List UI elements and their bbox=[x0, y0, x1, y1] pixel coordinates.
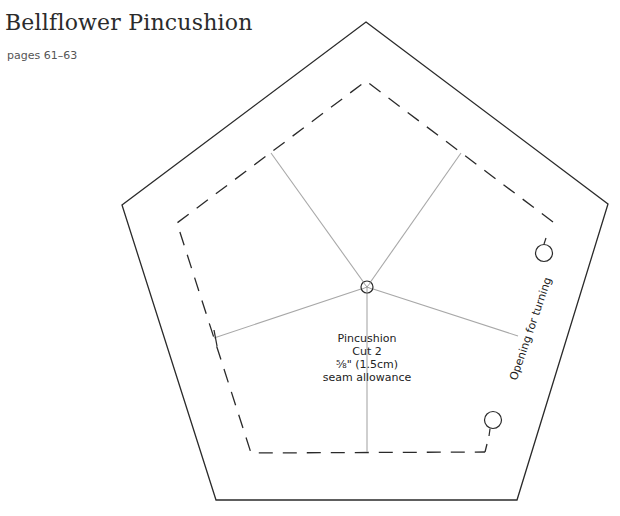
pattern-diagram: Pincushion Cut 2 ⅝" (1.5cm) seam allowan… bbox=[0, 0, 620, 516]
center-marker-icon bbox=[361, 281, 373, 293]
piece-name-label: Pincushion bbox=[338, 332, 397, 345]
opening-marker-bottom bbox=[485, 412, 502, 437]
cut-count-label: Cut 2 bbox=[352, 345, 381, 358]
opening-marker-top bbox=[536, 238, 553, 262]
seam-line bbox=[177, 81, 553, 453]
seam-allowance-value: ⅝" (1.5cm) bbox=[336, 358, 398, 371]
opening-for-turning-label: Opening for turning bbox=[507, 276, 554, 382]
petal-guide-lines bbox=[214, 153, 518, 452]
seam-allowance-label: seam allowance bbox=[323, 371, 412, 384]
cutting-line bbox=[122, 22, 608, 500]
